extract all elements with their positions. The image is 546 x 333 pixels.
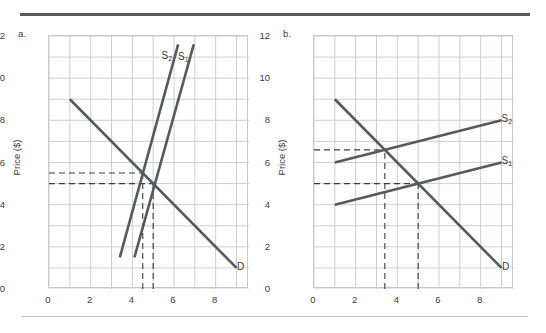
curve-label-d-b: D [502, 260, 509, 271]
y-axis-tick-label: 0 [240, 283, 270, 294]
curve-label-s1-b: S1 [501, 155, 512, 166]
plot-area-b [313, 35, 513, 288]
y-axis-tick-label: 2 [240, 240, 270, 251]
y-axis-tick-label: 12 [240, 30, 270, 41]
curve-label-d-a: D [237, 260, 244, 271]
x-axis-tick-label: 0 [301, 294, 325, 305]
y-axis-title-a: Price ($) [11, 108, 22, 208]
economics-supply-demand-figure: a. Price ($) 02468101202468DS1S2 b. Pric… [0, 0, 546, 333]
x-axis-tick-label: 4 [384, 294, 408, 305]
y-axis-title-b: Price ($) [276, 108, 287, 208]
y-axis-tick-label: 0 [0, 283, 5, 294]
x-axis-tick-label: 2 [343, 294, 367, 305]
bottom-divider-rule [22, 316, 528, 317]
y-axis-tick-label: 2 [0, 240, 5, 251]
chart-panel-b: b. Price ($) 02468101202468DS1S2 [275, 24, 538, 314]
x-axis-tick-label: 2 [78, 294, 102, 305]
y-axis-tick-label: 4 [0, 198, 5, 209]
x-axis-tick-label: 4 [119, 294, 143, 305]
y-axis-tick-label: 10 [240, 72, 270, 83]
curve-label-s1-a: S1 [178, 51, 189, 62]
panel-letter-a: a. [18, 28, 26, 39]
x-axis-tick-label: 6 [161, 294, 185, 305]
y-axis-tick-label: 8 [240, 114, 270, 125]
chart-canvas-a [49, 36, 249, 289]
x-axis-tick-label: 0 [36, 294, 60, 305]
x-axis-tick-label: 8 [203, 294, 227, 305]
curve-label-s2-b: S2 [501, 113, 512, 124]
y-axis-tick-label: 8 [0, 114, 5, 125]
y-axis-tick-label: 12 [0, 30, 5, 41]
x-axis-tick-label: 6 [426, 294, 450, 305]
chart-canvas-b [314, 36, 514, 289]
chart-panel-a: a. Price ($) 02468101202468DS1S2 [10, 24, 273, 314]
panel-letter-b: b. [283, 28, 291, 39]
y-axis-tick-label: 6 [0, 156, 5, 167]
y-axis-tick-label: 6 [240, 156, 270, 167]
plot-area-a [48, 35, 248, 288]
y-axis-tick-label: 4 [240, 198, 270, 209]
top-divider-rule [20, 13, 530, 16]
y-axis-tick-label: 10 [0, 72, 5, 83]
x-axis-tick-label: 8 [468, 294, 492, 305]
curve-label-s2-a: S2 [161, 50, 172, 61]
